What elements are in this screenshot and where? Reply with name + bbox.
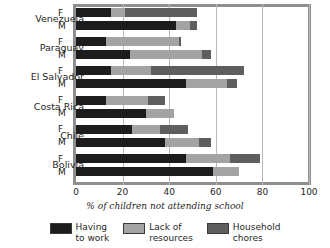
bar-segment-chores bbox=[148, 96, 164, 105]
bar-segment-res bbox=[132, 125, 160, 134]
country-label-venezuela: Venezuela bbox=[35, 14, 84, 24]
legend-label-chores: Household chores bbox=[233, 222, 281, 243]
bar-segment-work bbox=[76, 79, 186, 88]
x-axis-title: % of children not attending school bbox=[0, 201, 330, 211]
bar-segment-chores bbox=[202, 50, 211, 59]
bar-segment-res bbox=[130, 50, 202, 59]
bar-segment-res bbox=[106, 96, 148, 105]
bar-bolivia-f bbox=[76, 154, 260, 163]
country-label-el-salvador: El Salvador bbox=[31, 72, 84, 82]
bar-segment-chores bbox=[125, 8, 197, 17]
bar-bolivia-m bbox=[76, 167, 239, 176]
bar-segment-work bbox=[76, 167, 213, 176]
x-tick-40: 40 bbox=[156, 188, 182, 197]
legend-item-res: Lack of resources bbox=[123, 222, 193, 243]
bar-el-salvador-m bbox=[76, 79, 237, 88]
bar-venezuela-m bbox=[76, 21, 197, 30]
legend: Having to workLack of resourcesHousehold… bbox=[0, 222, 330, 248]
bar-segment-chores bbox=[190, 21, 197, 30]
country-label-bolivia: Bolivia bbox=[52, 160, 84, 170]
bar-paraguay-f bbox=[76, 37, 181, 46]
bar-costa-rica-f bbox=[76, 96, 165, 105]
bar-venezuela-f bbox=[76, 8, 197, 17]
country-label-chile: Chile bbox=[60, 131, 84, 141]
bar-segment-chores bbox=[199, 138, 211, 147]
x-tick-100: 100 bbox=[296, 188, 322, 197]
country-label-costa-rica: Costa Rica bbox=[34, 102, 84, 112]
bar-segment-work bbox=[76, 21, 176, 30]
bar-segment-chores bbox=[151, 66, 244, 75]
bar-segment-res bbox=[176, 21, 190, 30]
bar-segment-res bbox=[213, 167, 239, 176]
bar-segment-chores bbox=[230, 154, 260, 163]
legend-label-res: Lack of resources bbox=[149, 222, 193, 243]
legend-item-chores: Household chores bbox=[207, 222, 281, 243]
bar-segment-res bbox=[186, 79, 228, 88]
legend-label-work: Having to work bbox=[76, 222, 110, 243]
stacked-bar-chart: FMFMFMFMFMFMVenezuelaParaguayEl Salvador… bbox=[0, 0, 330, 248]
bar-chile-m bbox=[76, 138, 211, 147]
gridline-80 bbox=[262, 4, 263, 185]
bar-segment-chores bbox=[227, 79, 236, 88]
x-tick-20: 20 bbox=[110, 188, 136, 197]
bar-segment-work bbox=[76, 125, 132, 134]
bar-segment-work bbox=[76, 154, 186, 163]
x-tick-60: 60 bbox=[203, 188, 229, 197]
gridline-100 bbox=[309, 4, 310, 185]
bar-segment-res bbox=[165, 138, 200, 147]
x-tick-0: 0 bbox=[63, 188, 89, 197]
bar-segment-res bbox=[111, 66, 151, 75]
bar-chile-f bbox=[76, 125, 188, 134]
bar-segment-res bbox=[146, 109, 174, 118]
legend-swatch-chores bbox=[207, 223, 229, 234]
bar-paraguay-m bbox=[76, 50, 211, 59]
country-label-paraguay: Paraguay bbox=[40, 43, 84, 53]
legend-item-work: Having to work bbox=[50, 222, 110, 243]
bar-segment-chores bbox=[179, 37, 181, 46]
bar-costa-rica-m bbox=[76, 109, 174, 118]
bar-segment-res bbox=[186, 154, 230, 163]
bar-segment-chores bbox=[160, 125, 188, 134]
bar-segment-work bbox=[76, 50, 130, 59]
bar-segment-work bbox=[76, 109, 146, 118]
bar-segment-res bbox=[106, 37, 178, 46]
bar-segment-res bbox=[111, 8, 125, 17]
legend-swatch-work bbox=[50, 223, 72, 234]
bar-segment-work bbox=[76, 138, 165, 147]
legend-swatch-res bbox=[123, 223, 145, 234]
bar-el-salvador-f bbox=[76, 66, 244, 75]
x-tick-80: 80 bbox=[249, 188, 275, 197]
